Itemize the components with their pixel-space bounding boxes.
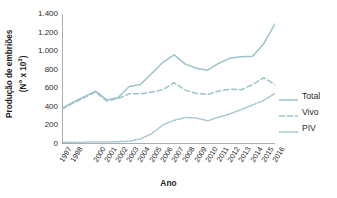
y-axis-tick-label: 1.000 xyxy=(28,47,58,55)
y-axis-title-line1: Produção de embriões xyxy=(5,30,14,118)
series-line-piv xyxy=(62,93,275,142)
legend-item-piv[interactable]: PIV xyxy=(279,120,337,136)
y-axis-tick-label: 400 xyxy=(28,103,58,111)
chart-svg xyxy=(62,14,275,144)
series-line-total xyxy=(62,24,275,109)
y-axis-tick-label: 200 xyxy=(28,121,58,129)
y-axis-tick-labels: 02004006008001.0001.2001.400 xyxy=(28,0,58,198)
series-line-vivo xyxy=(62,78,275,110)
x-axis-title: Ano xyxy=(62,178,275,188)
legend-label: PIV xyxy=(302,123,316,133)
legend-label: Vivo xyxy=(302,107,319,117)
x-axis-tick-labels: 1997199820002001200220032004200520062007… xyxy=(62,145,277,179)
y-axis-title-line2: (No x 103) xyxy=(15,15,29,133)
chart-figure: Produção de embriões (No x 103) 02004006… xyxy=(0,0,337,198)
y-axis-tick-label: 1.200 xyxy=(28,29,58,37)
plot-area xyxy=(62,14,275,144)
legend-swatch-dotted-icon xyxy=(279,123,298,133)
y-axis-tick-label: 0 xyxy=(28,140,58,148)
y-axis-tick-label: 800 xyxy=(28,66,58,74)
y-axis-title: Produção de embriões (No x 103) xyxy=(5,15,29,133)
y-axis-tick-label: 1.400 xyxy=(28,10,58,18)
chart-legend: TotalVivoPIV xyxy=(279,88,337,136)
legend-swatch-solid-icon xyxy=(279,91,298,101)
legend-item-total[interactable]: Total xyxy=(279,88,337,104)
y-axis-tick-label: 600 xyxy=(28,84,58,92)
legend-item-vivo[interactable]: Vivo xyxy=(279,104,337,120)
legend-swatch-dashed-icon xyxy=(279,107,298,117)
legend-label: Total xyxy=(302,91,320,101)
